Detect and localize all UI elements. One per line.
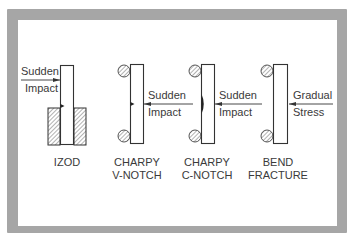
bend-caption-line2: FRACTURE bbox=[238, 169, 318, 182]
charpy-c-caption-line2: C-NOTCH bbox=[167, 169, 247, 182]
izod-force-label-line1: Sudden bbox=[21, 65, 59, 78]
izod-force-label-line2: Impact bbox=[25, 82, 58, 95]
charpy-v-force-label-line1: Sudden bbox=[148, 89, 186, 102]
specimen-test-diagram bbox=[0, 0, 352, 239]
charpy-v-anvil-bottom bbox=[118, 130, 130, 142]
bend-force-label-line1: Gradual bbox=[293, 89, 332, 102]
izod-vise-right bbox=[74, 108, 86, 145]
charpy-v-caption: CHARPY V-NOTCH bbox=[97, 156, 177, 182]
bend-force-label-line2: Stress bbox=[293, 106, 324, 119]
charpy-c-caption: CHARPY C-NOTCH bbox=[167, 156, 247, 182]
charpy-c-caption-line1: CHARPY bbox=[167, 156, 247, 169]
izod-caption: IZOD bbox=[27, 156, 107, 169]
bend-anvil-bottom bbox=[261, 130, 273, 142]
charpy-v-specimen bbox=[118, 65, 193, 144]
charpy-v-caption-line1: CHARPY bbox=[97, 156, 177, 169]
bend-caption: BEND FRACTURE bbox=[238, 156, 318, 182]
bend-specimen bbox=[261, 65, 333, 144]
charpy-v-caption-line2: V-NOTCH bbox=[97, 169, 177, 182]
izod-vise-left bbox=[48, 108, 60, 145]
charpy-c-anvil-bottom bbox=[189, 130, 201, 142]
charpy-c-specimen bbox=[189, 65, 262, 144]
charpy-c-force-label-line1: Sudden bbox=[219, 89, 257, 102]
bend-bar bbox=[274, 65, 288, 144]
charpy-v-force-label-line2: Impact bbox=[148, 106, 181, 119]
bend-anvil-top bbox=[261, 65, 273, 77]
izod-caption-line1: IZOD bbox=[27, 156, 107, 169]
charpy-v-anvil-top bbox=[118, 65, 130, 77]
charpy-c-anvil-top bbox=[189, 65, 201, 77]
charpy-c-force-label-line2: Impact bbox=[219, 106, 252, 119]
bend-caption-line1: BEND bbox=[238, 156, 318, 169]
